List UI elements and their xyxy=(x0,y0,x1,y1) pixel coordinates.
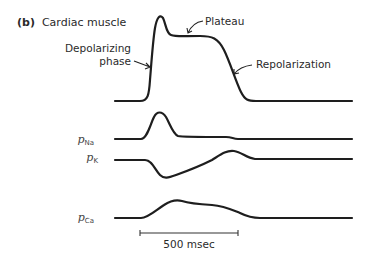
scale-bar-label: 500 msec xyxy=(163,238,215,250)
p-na-trace xyxy=(115,113,352,140)
p-k-label: pK xyxy=(86,151,98,165)
plateau-label: Plateau xyxy=(205,15,244,27)
p-na-label: pNa xyxy=(77,133,94,147)
panel-title-text: Cardiac muscle xyxy=(42,16,127,29)
panel-title: (b) Cardiac muscle xyxy=(17,12,127,29)
depolarizing-label-line1: Depolarizing xyxy=(65,42,131,54)
p-k-trace xyxy=(115,151,352,178)
repolarization-arrow-icon xyxy=(234,65,252,74)
scale-bar: 500 msec xyxy=(140,230,238,250)
plateau-arrow-icon xyxy=(187,21,203,33)
cardiac-muscle-figure: (b) Cardiac muscle Depolarizing phase Pl… xyxy=(0,0,374,257)
depolarizing-label-line2: phase xyxy=(99,55,131,67)
repolarization-label: Repolarization xyxy=(256,58,331,70)
p-ca-trace xyxy=(115,200,352,218)
p-ca-label: pCa xyxy=(78,211,94,225)
depolarizing-arrow-icon xyxy=(134,61,150,69)
panel-letter: (b) xyxy=(17,16,35,29)
